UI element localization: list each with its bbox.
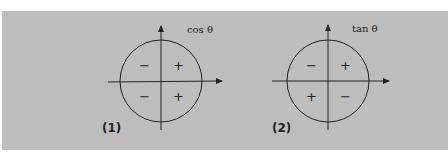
quadrant-1-sign: + [340,58,351,73]
quadrant-1-sign: + [173,58,184,73]
diagram-2-tan: tan θ − + + − (2) [272,23,389,135]
x-axis [108,81,222,82]
quadrant-3-sign: − [139,89,150,104]
quadrant-3-sign: + [306,89,317,104]
quadrant-4-sign: + [173,89,184,104]
function-label: cos θ [187,24,213,35]
sign-diagrams: cos θ − + − + (1) tan θ − + + − (2) [0,0,448,155]
diagram-number: (2) [272,121,291,135]
quadrant-2-sign: − [139,58,150,73]
function-label: tan θ [352,23,378,34]
quadrant-2-sign: − [306,58,317,73]
quadrant-4-sign: − [340,89,351,104]
diagram-1-cos: cos θ − + − + (1) [102,24,222,135]
diagram-number: (1) [102,121,121,135]
